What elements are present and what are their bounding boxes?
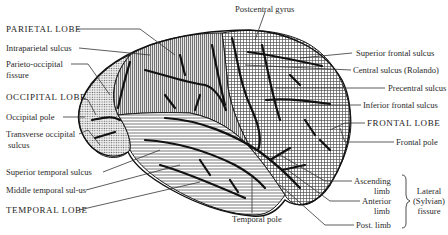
label-occipital-pole: Occipital pole bbox=[6, 112, 54, 122]
label-lateral-fissure-1: Lateral bbox=[412, 186, 446, 196]
label-frontal-lobe: FRONTAL LOBE bbox=[367, 118, 440, 128]
label-central-sulcus: Central sulcus (Rolando) bbox=[353, 65, 439, 75]
label-inferior-frontal-sulcus: Inferior frontal sulcus bbox=[363, 100, 438, 110]
label-precentral-sulcus: Precentral sulcus bbox=[388, 83, 446, 93]
label-temporal-pole: Temporal pole bbox=[232, 214, 282, 224]
label-transverse-occipital-sulcus-2: sulcus bbox=[8, 140, 29, 150]
label-superior-temporal-sulcus: Superior temporal sulcus bbox=[6, 167, 92, 177]
label-anterior-limb-1: Anterior bbox=[362, 196, 391, 206]
label-post-limb: Post. limb bbox=[356, 220, 391, 230]
label-ascending-limb-2: limb bbox=[374, 186, 390, 196]
label-parieto-occipital-fissure-2: fissure bbox=[6, 70, 29, 80]
label-occipital-lobe: OCCIPITAL LOBE bbox=[6, 92, 86, 102]
label-parieto-occipital-fissure-1: Parieto-occipital bbox=[6, 59, 63, 69]
label-postcentral-gyrus: Postcentral gyrus bbox=[235, 4, 294, 14]
label-middle-temporal-sulcus: Middle temporal sul-us bbox=[6, 185, 86, 195]
brain-diagram: PARIETAL LOBE Intraparietal sulcus Parie… bbox=[0, 0, 448, 235]
label-anterior-limb-2: limb bbox=[374, 206, 390, 216]
label-temporal-lobe: TEMPORAL LOBE bbox=[6, 205, 88, 215]
label-transverse-occipital-sulcus-1: Transverse occipital bbox=[6, 129, 75, 139]
label-intraparietal-sulcus: Intraparietal sulcus bbox=[6, 43, 72, 53]
label-lateral-fissure-2: (Sylvian) bbox=[412, 196, 446, 206]
label-parietal-lobe: PARIETAL LOBE bbox=[6, 24, 81, 34]
label-superior-frontal-sulcus: Superior frontal sulcus bbox=[356, 48, 434, 58]
label-lateral-fissure-3: fissure bbox=[412, 206, 446, 216]
label-frontal-pole: Frontal pole bbox=[396, 137, 438, 147]
label-ascending-limb-1: Ascending bbox=[354, 176, 391, 186]
